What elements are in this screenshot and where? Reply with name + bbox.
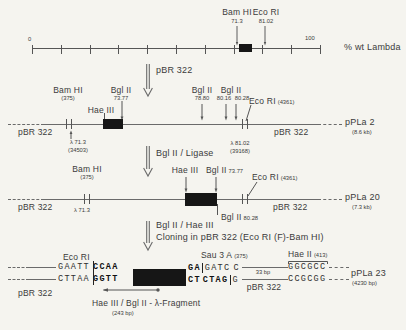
map3-bglii-2-enzyme: Bgl II	[221, 212, 242, 222]
seq-bottom-left-vector: CTTAA	[58, 275, 90, 284]
final-top-left-dashes	[8, 267, 29, 268]
ruler-site1-enzyme-label: Bam HI	[222, 8, 252, 17]
map3-ecori-enzyme: Eco RI	[252, 172, 279, 182]
map2-plasmid-name: pPLa 2	[345, 118, 375, 127]
map2-lambda-left-bp: (34503)	[68, 148, 88, 154]
ruler-tick	[262, 45, 263, 54]
map2-bamhi-label: Bam HI	[53, 86, 83, 95]
sau3a-cut-bar-top	[202, 263, 203, 273]
map2-lambda-right-coordinate: λ 81.02	[230, 141, 249, 147]
map3-right-dashed-line	[318, 199, 342, 200]
map2-bamhi-position: (375)	[61, 96, 75, 102]
seq-top-left-vector: GAATT	[58, 263, 90, 272]
final-left-vector-label: pBR 322	[18, 289, 52, 298]
fragment-caption: Hae III / Bgl II - λ-Fragment	[92, 299, 200, 308]
map3-bamhi-label: Bam HI	[72, 165, 102, 174]
map2-right-vector-label: pBR 322	[274, 128, 308, 137]
final-plasmid-name: pPLa 23	[351, 269, 386, 278]
map2-haeiii-label: Hae III	[88, 106, 114, 115]
map3-ecori-label: Eco RI(4361)	[252, 173, 297, 182]
ruler-tick	[32, 45, 33, 54]
map3-bglii-2-position: 80.28	[244, 216, 259, 222]
final-bottom-left-line	[29, 279, 56, 280]
final-top-left-sequence: GAATTCCAA	[58, 263, 119, 272]
haeii-enzyme: Hae II	[288, 249, 312, 259]
map2-bglii-1-position: 73.77	[114, 96, 129, 102]
map3-lambda-insert-block	[185, 193, 217, 206]
seq-bottom-far: CCGCGG	[288, 275, 326, 284]
final-bottom-right-sequence: CTCTAGG	[188, 275, 239, 285]
final-sau3a-label: Sau 3 A(375)	[201, 251, 248, 260]
map3-plasmid-size: (7.3 kb)	[352, 205, 372, 211]
map3-bamhi-position: (375)	[80, 175, 94, 181]
ruler-unit-label: % wt Lambda	[344, 43, 401, 52]
map2-bglii-2-position: 78.80	[195, 96, 210, 102]
ruler-tick	[61, 45, 62, 54]
final-bottom-right-dashes	[329, 279, 349, 280]
step2-label: Bgl II / Ligase	[156, 149, 214, 158]
ruler-tick	[205, 45, 206, 54]
map3-right-vector-label: pBR 322	[273, 203, 307, 212]
ruler-tick	[118, 45, 119, 54]
final-top-left-line	[29, 267, 56, 268]
map3-bglii-1-label: Bgl II73.77	[206, 166, 243, 175]
map2-lambda-left-coordinate: λ 71.3	[70, 140, 86, 146]
cloning-scheme-figure: Bam HI 71.3 Eco RI 81.02 0 100 % wt Lamb…	[0, 0, 406, 330]
map3-left-vector-label: pBR 322	[18, 203, 52, 212]
seq-top-right-site: GATC	[205, 264, 231, 273]
map2-bglii-1-label: Bgl II	[111, 86, 132, 95]
final-bottom-left-sequence: CTTAAGGTT	[58, 275, 119, 284]
map3-bglii-2-label: Bgl II80.28	[221, 213, 258, 222]
final-top-mid-line	[242, 267, 288, 268]
sau3a-enzyme: Sau 3 A	[201, 250, 232, 260]
sau3a-position: (375)	[234, 254, 248, 260]
step3-line2-label: Cloning in pBR 322 (Eco RI (F)-Bam HI)	[156, 233, 324, 242]
ruler-tick	[291, 45, 292, 54]
seq-top-right-vector: C	[233, 264, 239, 273]
lambda-insert-block-ruler	[239, 44, 252, 52]
map2-right-dashed-line	[318, 124, 342, 125]
map3-left-dashed-line	[8, 199, 44, 200]
final-top-far-sequence: GGCGCC	[288, 263, 326, 272]
map2-left-dashed-line	[8, 124, 44, 125]
ruler-scale-start: 0	[28, 37, 31, 43]
map2-bglii-3-label: Bgl II	[221, 86, 242, 95]
ruler-tick	[90, 45, 91, 54]
map2-bglii-3-position-a: 80.16	[217, 96, 232, 102]
map3-plasmid-name: pPLa 20	[345, 193, 380, 202]
map3-lambda-left-coordinate: λ 71.3	[74, 208, 90, 214]
step1-label: pBR 322	[156, 66, 192, 75]
ruler-tick	[234, 45, 235, 54]
seq-top-left-insert: CCAA	[93, 263, 119, 272]
map2-ecori-position: (4361)	[278, 100, 295, 106]
ruler-tick	[320, 45, 321, 54]
ruler-scale-end: 100	[305, 36, 315, 42]
seq-bottom-right-site: CTAG	[203, 276, 229, 285]
ruler-tick	[176, 45, 177, 54]
haeii-position: (413)	[314, 253, 328, 259]
map2-left-vector-label: pBR 322	[18, 128, 52, 137]
map2-lambda-right-bp: (39168)	[230, 149, 250, 155]
final-ecori-label: Eco RI	[63, 253, 90, 262]
map2-left-junction	[66, 119, 73, 129]
seq-top-far: GGCGCC	[288, 263, 326, 272]
ruler-site1-position: 71.3	[231, 19, 242, 25]
map3-left-junction	[84, 194, 91, 204]
seq-bottom-right-insert: CT	[188, 276, 201, 285]
spacer-length-label: 33 bp	[256, 270, 271, 276]
final-bottom-mid-line	[242, 279, 288, 280]
map2-ecori-enzyme: Eco RI	[249, 96, 276, 106]
map3-ecori-position: (4361)	[281, 176, 298, 182]
sau3a-cut-bar-bottom	[230, 275, 231, 285]
seq-bottom-right-vector: G	[232, 276, 238, 285]
map2-lambda-insert-block	[103, 119, 123, 129]
map3-bglii-1-enzyme: Bgl II	[206, 165, 227, 175]
map2-plasmid-size: (8.6 kb)	[352, 130, 372, 136]
lambda-scale-ruler	[32, 48, 320, 49]
map3-haeiii-label: Hae III	[172, 166, 198, 175]
map2-backbone-line	[44, 124, 318, 125]
final-bottom-left-dashes	[8, 279, 29, 280]
ruler-tick	[147, 45, 148, 54]
ecori-cut-site-bar	[93, 261, 94, 285]
map2-right-junction	[242, 119, 249, 129]
